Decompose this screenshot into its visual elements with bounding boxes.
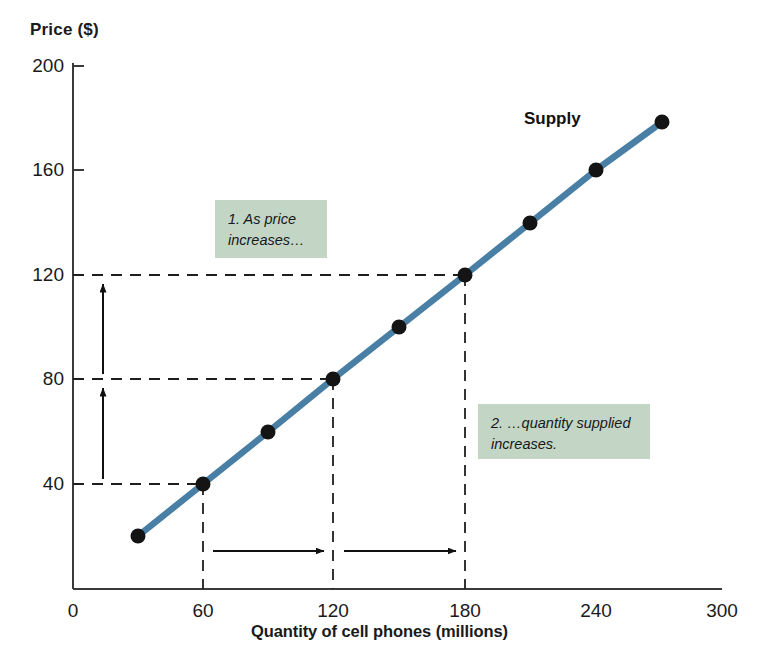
data-point: [392, 320, 407, 335]
y-tick-label-160: 160: [8, 159, 64, 181]
supply-curve: [131, 115, 670, 544]
callout-as-price-increases: 1. As price increases…: [215, 200, 327, 258]
data-point: [458, 268, 473, 283]
data-point: [523, 216, 538, 231]
callout-quantity-supplied-increases: 2. …quantity supplied increases.: [478, 404, 650, 459]
data-point: [131, 529, 146, 544]
callout-1-line-2: increases…: [228, 230, 315, 251]
x-tick-label-240: 240: [566, 600, 626, 622]
data-point: [261, 425, 276, 440]
x-tick-label-180: 180: [435, 600, 495, 622]
y-axis-title: Price ($): [30, 20, 99, 40]
y-tick-label-200: 200: [8, 55, 64, 77]
callout-2-line-1: 2. …quantity supplied: [491, 413, 638, 434]
x-axis-title: Quantity of cell phones (millions): [0, 622, 759, 641]
callout-2-line-2: increases.: [491, 434, 638, 455]
y-tick-label-120: 120: [8, 264, 64, 286]
y-tick-label-80: 80: [8, 368, 64, 390]
callout-1-line-1: 1. As price: [228, 209, 315, 230]
x-tick-label-120: 120: [303, 600, 363, 622]
data-point: [326, 372, 341, 387]
x-tick-label-300: 300: [692, 600, 752, 622]
chart-canvas: [0, 0, 759, 659]
x-tick-label-60: 60: [173, 600, 233, 622]
data-point: [655, 115, 670, 130]
supply-curve-figure: Price ($) Quantity of cell phones (milli…: [0, 0, 759, 659]
x-tick-label-0: 0: [43, 600, 103, 622]
y-tick-label-40: 40: [8, 473, 64, 495]
data-point: [589, 163, 604, 178]
data-point: [196, 477, 211, 492]
supply-series-label: Supply: [524, 109, 581, 129]
